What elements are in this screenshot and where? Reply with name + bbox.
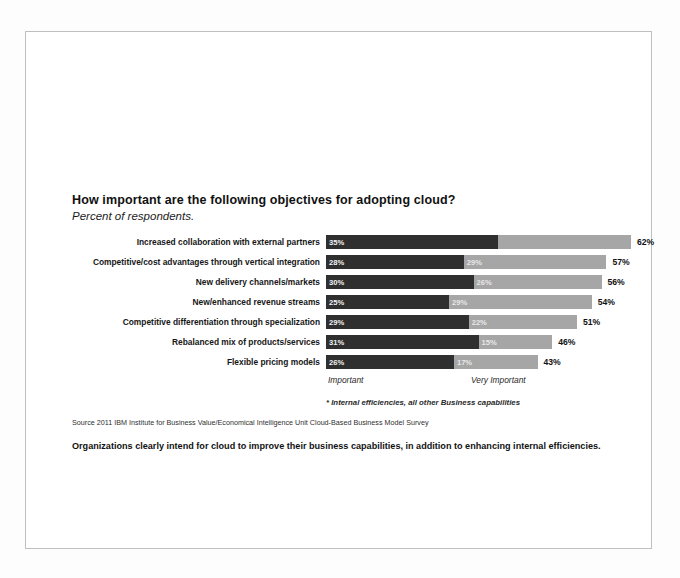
bar-segment-very-important: 26%	[474, 275, 602, 289]
chart-row-total: 43%	[538, 357, 561, 367]
bar-segment-value-very-important: 29%	[449, 298, 467, 307]
source-citation: Source 2011 IBM Institute for Business V…	[72, 418, 672, 427]
chart-row-total: 46%	[552, 337, 575, 347]
chart-bar-wrap: 31%15%46%	[326, 335, 672, 349]
bar-segment-value-important: 31%	[326, 338, 344, 347]
stacked-bar-chart: Increased collaboration with external pa…	[72, 235, 672, 369]
bar-segment-important: 26%	[326, 355, 454, 369]
chart-bar-wrap: 30%26%56%	[326, 275, 672, 289]
bar-segment-important: 35%	[326, 235, 498, 249]
stacked-bar: 29%22%	[326, 315, 577, 329]
slide-content: How important are the following objectiv…	[72, 193, 672, 452]
chart-bar-wrap: 35%62%	[326, 235, 672, 249]
bar-segment-value-very-important: 22%	[469, 318, 487, 327]
slide-frame: How important are the following objectiv…	[25, 31, 652, 549]
chart-row-total: 51%	[577, 317, 600, 327]
bar-segment-important: 28%	[326, 255, 464, 269]
chart-bar-wrap: 25%29%54%	[326, 295, 672, 309]
stacked-bar: 28%29%	[326, 255, 606, 269]
bar-segment-value-important: 35%	[326, 238, 344, 247]
bar-segment-value-important: 26%	[326, 358, 344, 367]
chart-row-total: 54%	[592, 297, 615, 307]
bar-segment-very-important: 15%	[479, 335, 553, 349]
chart-row-label: Competitive/cost advantages through vert…	[72, 257, 326, 267]
bar-segment-very-important: 29%	[464, 255, 607, 269]
stacked-bar: 25%29%	[326, 295, 592, 309]
legend-item-important: Important	[328, 375, 363, 385]
bar-segment-very-important: 29%	[449, 295, 592, 309]
stacked-bar: 31%15%	[326, 335, 552, 349]
chart-row-label: Flexible pricing models	[72, 357, 326, 367]
bar-segment-value-very-important: 17%	[454, 358, 472, 367]
stacked-bar: 26%17%	[326, 355, 538, 369]
chart-row: Competitive/cost advantages through vert…	[72, 255, 672, 269]
chart-bar-wrap: 28%29%57%	[326, 255, 672, 269]
bar-segment-very-important	[498, 235, 631, 249]
bar-segment-very-important: 17%	[454, 355, 538, 369]
stacked-bar: 30%26%	[326, 275, 602, 289]
page-title: How important are the following objectiv…	[72, 193, 672, 208]
chart-row: Competitive differentiation through spec…	[72, 315, 672, 329]
chart-row-label: Increased collaboration with external pa…	[72, 237, 326, 247]
bar-segment-value-important: 28%	[326, 258, 344, 267]
bar-segment-important: 30%	[326, 275, 474, 289]
chart-row-label: Rebalanced mix of products/services	[72, 337, 326, 347]
chart-bar-wrap: 29%22%51%	[326, 315, 672, 329]
chart-row: New/enhanced revenue streams25%29%54%	[72, 295, 672, 309]
bar-segment-important: 25%	[326, 295, 449, 309]
bar-segment-value-important: 30%	[326, 278, 344, 287]
chart-row-label: New delivery channels/markets	[72, 277, 326, 287]
bar-segment-value-very-important: 15%	[479, 338, 497, 347]
bar-segment-important: 31%	[326, 335, 479, 349]
bar-segment-very-important: 22%	[469, 315, 577, 329]
chart-legend: Important Very Important	[326, 375, 672, 389]
chart-row-label: New/enhanced revenue streams	[72, 297, 326, 307]
bar-segment-value-important: 29%	[326, 318, 344, 327]
bar-segment-value-very-important: 26%	[474, 278, 492, 287]
chart-row-label: Competitive differentiation through spec…	[72, 317, 326, 327]
stacked-bar: 35%	[326, 235, 631, 249]
chart-row: New delivery channels/markets30%26%56%	[72, 275, 672, 289]
chart-row: Flexible pricing models26%17%43%	[72, 355, 672, 369]
chart-footnote: * Internal efficiencies, all other Busin…	[326, 398, 672, 407]
chart-row-total: 56%	[602, 277, 625, 287]
bar-segment-important: 29%	[326, 315, 469, 329]
conclusion-statement: Organizations clearly intend for cloud t…	[72, 440, 672, 452]
chart-row-total: 62%	[631, 237, 654, 247]
chart-bar-wrap: 26%17%43%	[326, 355, 672, 369]
bar-segment-value-very-important: 29%	[464, 258, 482, 267]
chart-row: Rebalanced mix of products/services31%15…	[72, 335, 672, 349]
chart-row: Increased collaboration with external pa…	[72, 235, 672, 249]
bar-segment-value-important: 25%	[326, 298, 344, 307]
chart-row-total: 57%	[606, 257, 629, 267]
legend-item-very-important: Very Important	[471, 375, 526, 385]
chart-subtitle: Percent of respondents.	[72, 209, 672, 223]
